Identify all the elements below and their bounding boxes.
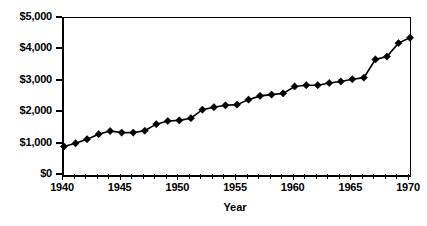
x-axis-minor-tick [154, 174, 155, 179]
data-point-marker [280, 90, 287, 97]
x-axis-major-tick [62, 174, 63, 180]
x-axis-minor-tick [270, 174, 271, 179]
data-point-marker [245, 96, 252, 103]
x-axis-major-tick [177, 174, 178, 180]
x-axis-minor-tick [316, 174, 317, 179]
x-axis-major-tick [235, 174, 236, 180]
data-point-marker [118, 129, 125, 136]
data-point-marker [60, 143, 67, 150]
x-axis-minor-tick [304, 174, 305, 179]
x-axis-tick-label: 1950 [165, 182, 189, 193]
data-point-marker [130, 129, 137, 136]
plot-area [62, 17, 411, 177]
data-point-marker [141, 127, 148, 134]
data-point-marker [233, 101, 240, 108]
data-point-marker [303, 82, 310, 89]
y-axis-tick-label: $5,000 [20, 11, 52, 22]
x-axis-major-tick [350, 174, 351, 180]
data-point-marker [107, 127, 114, 134]
x-axis-minor-tick [327, 174, 328, 179]
x-axis-tick-label: 1955 [223, 182, 247, 193]
x-axis-minor-tick [223, 174, 224, 179]
data-point-marker [268, 91, 275, 98]
y-axis-tick-mark [56, 110, 62, 112]
x-axis-minor-tick [85, 174, 86, 179]
x-axis-tick-label: 1970 [396, 182, 420, 193]
data-point-marker [176, 117, 183, 124]
series-markers [60, 34, 413, 150]
x-axis-minor-tick [143, 174, 144, 179]
data-point-marker [349, 76, 356, 83]
x-axis-minor-tick [108, 174, 109, 179]
x-axis-major-tick [293, 174, 294, 180]
y-axis-tick-label: $3,000 [20, 74, 52, 85]
data-point-marker [291, 83, 298, 90]
data-point-marker [164, 117, 171, 124]
x-axis-minor-tick [247, 174, 248, 179]
x-axis-tick-label: 1965 [338, 182, 362, 193]
y-axis-tick-label: $0 [40, 168, 52, 179]
y-axis-tick-mark [56, 173, 62, 175]
data-point-marker [210, 104, 217, 111]
data-point-marker [337, 78, 344, 85]
x-axis-minor-tick [339, 174, 340, 179]
y-axis-tick-mark [56, 16, 62, 18]
x-axis-tick-label: 1945 [108, 182, 132, 193]
x-axis-major-tick [408, 174, 409, 180]
x-axis-minor-tick [396, 174, 397, 179]
x-axis-minor-tick [131, 174, 132, 179]
data-point-marker [83, 136, 90, 143]
data-series [64, 18, 410, 175]
y-axis-tick-label: $2,000 [20, 105, 52, 116]
data-point-marker [326, 79, 333, 86]
x-axis-minor-tick [97, 174, 98, 179]
x-axis-minor-tick [74, 174, 75, 179]
x-axis-tick-label: 1940 [50, 182, 74, 193]
y-axis-tick-mark [56, 79, 62, 81]
x-axis-minor-tick [281, 174, 282, 179]
y-axis-tick-label: $4,000 [20, 42, 52, 53]
y-axis-tick-label: $1,000 [20, 137, 52, 148]
x-axis-minor-tick [200, 174, 201, 179]
data-point-marker [153, 121, 160, 128]
x-axis-minor-tick [362, 174, 363, 179]
x-axis-major-tick [120, 174, 121, 180]
line-chart: $0$1,000$2,000$3,000$4,000$5,000 1940194… [0, 0, 427, 226]
x-axis-title: Year [62, 202, 408, 213]
data-point-marker [222, 102, 229, 109]
y-axis-tick-mark [56, 142, 62, 144]
data-point-marker [95, 131, 102, 138]
data-point-marker [314, 82, 321, 89]
x-axis-minor-tick [373, 174, 374, 179]
x-axis-minor-tick [166, 174, 167, 179]
x-axis-minor-tick [212, 174, 213, 179]
x-axis-tick-label: 1960 [281, 182, 305, 193]
x-axis-minor-tick [385, 174, 386, 179]
x-axis-minor-tick [189, 174, 190, 179]
x-axis-minor-tick [258, 174, 259, 179]
data-point-marker [256, 92, 263, 99]
data-point-marker [72, 140, 79, 147]
y-axis-tick-mark [56, 47, 62, 49]
data-point-marker [406, 34, 413, 41]
y-axis-labels: $0$1,000$2,000$3,000$4,000$5,000 [0, 0, 52, 226]
series-line [64, 38, 410, 147]
